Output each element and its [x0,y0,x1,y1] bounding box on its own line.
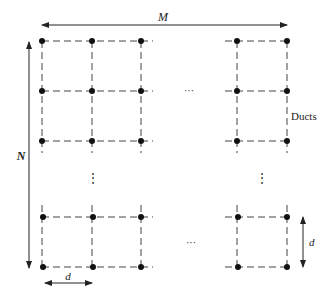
vertical-ellipsis-right: ⋮ [256,171,268,185]
m-label: M [157,10,169,24]
horizontal-ellipsis-bottom: ··· [186,237,196,248]
horizontal-ducts [42,41,287,267]
n-label: N [16,149,27,163]
d-vertical-label: d [309,236,315,248]
horizontal-ellipsis-top: ··· [184,85,194,96]
vertical-ellipsis-left: ⋮ [87,171,99,185]
duct-grid-diagram: M N ··· ··· ⋮ ⋮ [0,0,328,299]
d-horizontal-label: d [65,270,71,282]
ducts-label: Ducts [291,110,317,122]
duct-nodes [39,38,290,270]
vertical-ducts [42,41,287,267]
